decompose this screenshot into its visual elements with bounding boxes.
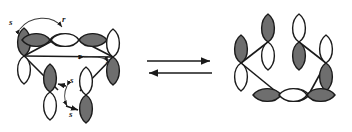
- label-s-bottom-up: s: [69, 75, 74, 85]
- label-r-top-right: r: [62, 14, 66, 24]
- label-s-bottom-down: s: [68, 109, 73, 119]
- label-s-top-left: s: [8, 17, 13, 27]
- label-r-mid: r: [78, 51, 82, 61]
- label-s-mid-right: s: [105, 55, 110, 65]
- orbital-reaction-figure: s r r s s s: [0, 0, 352, 132]
